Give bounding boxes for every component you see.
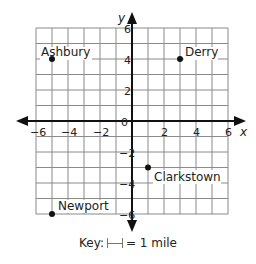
svg-text:6: 6 [124, 23, 131, 36]
svg-text:6: 6 [225, 126, 232, 139]
svg-text:−2: −2 [119, 147, 135, 160]
svg-text:2: 2 [124, 85, 131, 98]
svg-text:4: 4 [193, 126, 200, 139]
key-prefix: Key: [79, 236, 104, 250]
svg-text:−2: −2 [93, 126, 109, 139]
key-suffix: = 1 mile [126, 236, 177, 250]
x-axis-label: x [239, 125, 248, 139]
svg-text:Newport: Newport [58, 199, 109, 213]
clarkstown-dot-icon [145, 165, 151, 171]
newport-dot-icon [49, 211, 55, 217]
svg-text:−6: −6 [30, 126, 46, 139]
point-ashbury: Ashbury [40, 45, 92, 62]
svg-text:−6: −6 [119, 209, 135, 222]
origin-label: 0 [121, 116, 128, 129]
svg-text:2: 2 [161, 126, 168, 139]
svg-text:−4: −4 [119, 178, 135, 191]
x-axis-left-arrow-icon [16, 116, 28, 126]
svg-text:4: 4 [124, 54, 131, 67]
svg-text:Ashbury: Ashbury [41, 45, 90, 59]
derry-dot-icon [177, 56, 183, 62]
unit-segment-icon [107, 238, 123, 248]
svg-text:−4: −4 [61, 126, 77, 139]
coordinate-plane: x y 0 −6 −4 −2 2 4 6 6 4 2 −2 −4 −6 Ashb… [0, 0, 256, 236]
svg-text:Clarkstown: Clarkstown [154, 170, 221, 184]
map-key: Key:= 1 mile [0, 236, 256, 250]
svg-text:Derry: Derry [185, 45, 218, 59]
